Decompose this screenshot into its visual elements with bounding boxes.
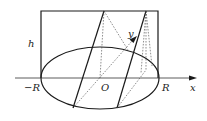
cylinder-wedge-diagram: h −R O R x y <box>0 0 207 121</box>
label-h: h <box>28 38 34 49</box>
label-r: R <box>161 82 170 93</box>
dash-right-base <box>117 70 146 108</box>
label-neg-r: −R <box>24 82 40 93</box>
dash-left-diagonal <box>104 11 128 50</box>
label-origin: O <box>101 82 109 93</box>
cut-line-right <box>117 11 146 108</box>
label-y: y <box>127 28 134 39</box>
cylinder-outline <box>41 11 158 78</box>
label-x: x <box>190 82 196 93</box>
y-axis <box>73 41 132 108</box>
x-axis-arrow-icon <box>189 76 197 81</box>
cut-line-left <box>73 11 104 108</box>
dash-right-3 <box>146 11 152 66</box>
